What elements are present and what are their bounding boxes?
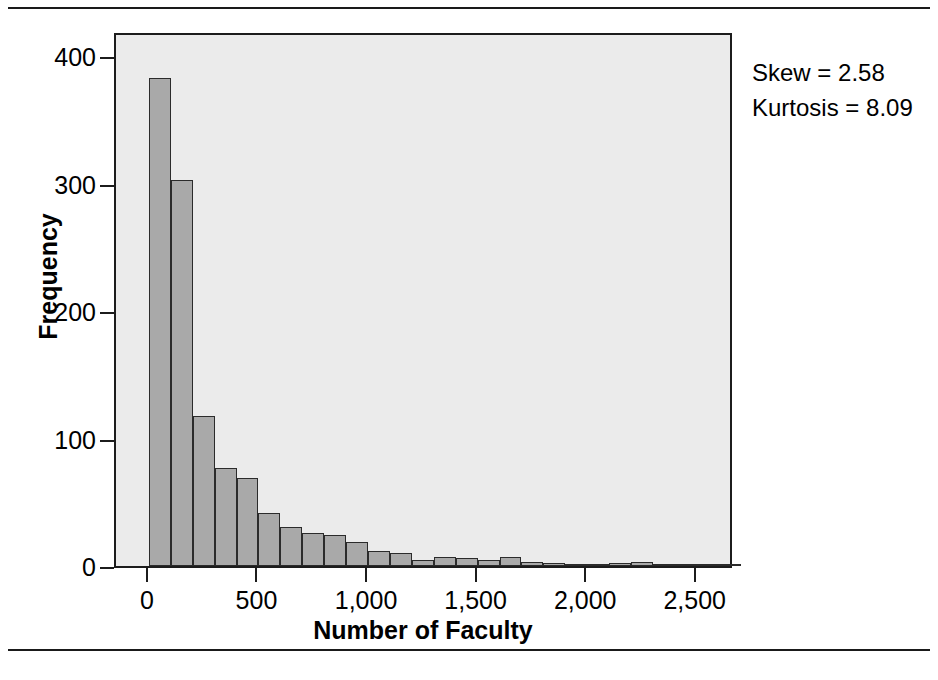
histogram-bar: [302, 533, 324, 566]
histogram-bar: [324, 535, 346, 566]
y-axis-tick: [100, 567, 114, 569]
kurtosis-value: Kurtosis = 8.09: [752, 90, 913, 125]
plot-area: [114, 33, 732, 568]
histogram-bars: [116, 35, 730, 566]
y-axis-tick: [100, 185, 114, 187]
x-axis-tick: [365, 568, 367, 582]
y-axis-title: Frequency: [34, 167, 63, 387]
histogram-bar: [412, 560, 434, 566]
histogram-bar: [149, 78, 171, 566]
histogram-bar: [193, 416, 215, 566]
histogram-bar: [237, 478, 259, 566]
histogram-bar: [258, 513, 280, 567]
histogram-bar: [719, 564, 741, 566]
histogram-bar: [171, 180, 193, 566]
histogram-bar: [565, 564, 587, 566]
histogram-bar: [368, 551, 390, 566]
y-axis-tick-label: 0: [36, 555, 96, 580]
y-axis-tick: [100, 312, 114, 314]
stats-annotation: Skew = 2.58 Kurtosis = 8.09: [752, 55, 913, 125]
x-axis-title: Number of Faculty: [114, 616, 732, 645]
x-axis-tick: [584, 568, 586, 582]
histogram-bar: [631, 562, 653, 566]
histogram-bar: [434, 557, 456, 566]
histogram-bar: [675, 564, 697, 566]
histogram-bar: [587, 564, 609, 566]
histogram-bar: [346, 542, 368, 566]
y-axis-tick: [100, 57, 114, 59]
x-axis-tick: [475, 568, 477, 582]
histogram-bar: [500, 557, 522, 566]
y-axis-tick: [100, 440, 114, 442]
x-axis-tick: [694, 568, 696, 582]
histogram-bar: [456, 558, 478, 566]
histogram-bar: [653, 564, 675, 566]
histogram-bar: [609, 563, 631, 566]
histogram-bar: [280, 527, 302, 566]
x-axis-tick: [146, 568, 148, 582]
x-axis-tick-label: 2,500: [615, 586, 775, 614]
histogram-bar: [478, 560, 500, 566]
x-axis-tick: [255, 568, 257, 582]
histogram-bar: [390, 553, 412, 566]
histogram-bar: [521, 562, 543, 566]
histogram-bar: [543, 563, 565, 566]
histogram-bar: [697, 564, 719, 566]
y-axis-tick-label: 100: [36, 428, 96, 453]
skew-value: Skew = 2.58: [752, 55, 913, 90]
histogram-bar: [215, 468, 237, 566]
figure-bottom-rule: [8, 649, 930, 651]
histogram-figure: 0100200300400 05001,0001,5002,0002,500 F…: [0, 0, 938, 680]
figure-top-rule: [8, 7, 930, 9]
y-axis-tick-label: 400: [36, 45, 96, 70]
